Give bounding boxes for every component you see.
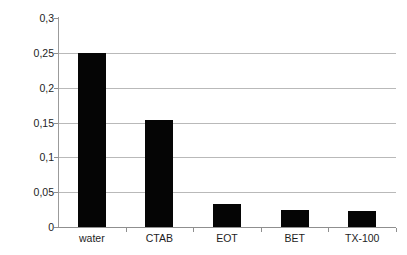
gridline xyxy=(58,157,396,158)
gridline xyxy=(58,192,396,193)
x-axis-category-label: CTAB xyxy=(126,232,194,244)
y-axis-tick-label: 0,05 xyxy=(14,187,54,197)
bar[interactable] xyxy=(78,53,106,227)
y-axis-tick-label: 0,1 xyxy=(14,152,54,162)
y-axis-tick-label: 0 xyxy=(14,222,54,232)
gridline xyxy=(58,53,396,54)
y-axis-tick-label: 0,2 xyxy=(14,83,54,93)
x-axis-category-label: EOT xyxy=(193,232,261,244)
y-axis-tick-labels: 00,050,10,150,20,250,3 xyxy=(8,18,54,227)
bar[interactable] xyxy=(348,211,376,227)
y-axis-tick-label: 0,15 xyxy=(14,118,54,128)
bar-chart: Vc [g/m2*day] 00,050,10,150,20,250,3 wat… xyxy=(0,0,407,255)
y-axis-tick-label: 0,3 xyxy=(14,13,54,23)
plot-area xyxy=(58,18,396,227)
bar[interactable] xyxy=(281,210,309,227)
x-axis-line xyxy=(58,227,396,228)
x-axis-category-label: water xyxy=(58,232,126,244)
gridline xyxy=(58,123,396,124)
bar[interactable] xyxy=(213,204,241,227)
x-axis-category-label: BET xyxy=(261,232,329,244)
bar[interactable] xyxy=(145,120,173,227)
y-axis-tick-label: 0,25 xyxy=(14,48,54,58)
y-axis-line xyxy=(58,17,59,228)
x-axis-category-label: TX-100 xyxy=(328,232,396,244)
gridline xyxy=(58,88,396,89)
x-axis-tick-mark xyxy=(396,228,397,232)
